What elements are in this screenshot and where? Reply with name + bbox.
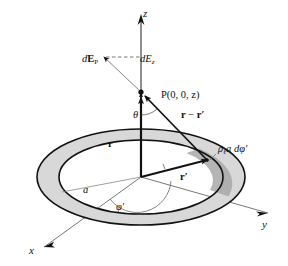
point-p-marker	[138, 89, 143, 94]
label-point-p: P(0, 0, z)	[161, 90, 200, 101]
vector-r-minus-r-prime	[145, 96, 208, 161]
label-phi-prime: φ′	[116, 202, 124, 213]
charge-element-marker	[205, 158, 209, 162]
theta-angle-arc	[141, 109, 157, 115]
label-charge-element: ρℓa dφ′	[218, 144, 247, 156]
label-vector-r-prime: r′	[180, 172, 188, 183]
radius-line-a	[62, 177, 141, 192]
vector-r-prime	[141, 160, 207, 177]
vector-dEp	[104, 57, 141, 92]
dEp-subscript: P	[94, 58, 98, 66]
charge-element-rest: a dφ′	[226, 143, 247, 154]
label-radius-a: a	[83, 185, 88, 196]
physics-figure: z y x dEP dEz P(0, 0, z) θ r r − r′ ρℓa …	[0, 0, 288, 266]
label-vector-r-minus-r-prime: r − r′	[181, 110, 204, 121]
label-dEz: dEz	[140, 54, 154, 66]
label-vector-r: r	[108, 139, 113, 150]
label-dEp: dEP	[82, 54, 98, 66]
label-theta-angle: θ	[133, 110, 138, 121]
r-prime-term: r′	[197, 109, 205, 120]
axis-label-y: y	[262, 219, 267, 230]
axis-label-z: z	[143, 8, 147, 19]
minus-sign: −	[186, 109, 197, 120]
axis-label-x: x	[29, 245, 34, 256]
dEz-subscript: z	[152, 58, 155, 66]
figure-drawing-canvas	[0, 0, 288, 266]
